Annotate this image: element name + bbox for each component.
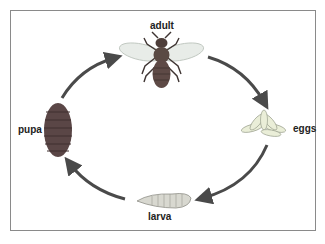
- arrow-eggs-to-larva: [203, 145, 267, 198]
- adult-bee-icon: [118, 32, 205, 88]
- arrow-adult-to-eggs: [208, 57, 264, 102]
- stage-label-eggs: eggs: [293, 123, 316, 134]
- stage-label-pupa: pupa: [18, 124, 42, 135]
- arrow-pupa-to-adult: [62, 58, 114, 98]
- stage-label-adult: adult: [150, 20, 174, 31]
- eggs-icon: [240, 110, 286, 138]
- pupa-icon: [44, 103, 72, 157]
- larva-icon: [137, 194, 191, 209]
- arrow-larva-to-pupa: [70, 164, 125, 199]
- life-cycle-diagram: [0, 0, 325, 244]
- stage-label-larva: larva: [148, 211, 171, 222]
